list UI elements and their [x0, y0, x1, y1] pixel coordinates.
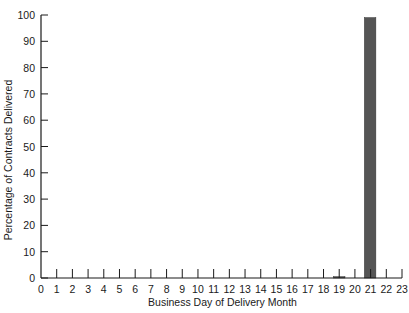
y-tick-label: 40 [5, 167, 35, 179]
y-axis-label: Percentage of Contracts Delivered [2, 80, 14, 241]
plot-area [0, 0, 409, 313]
y-tick-label: 80 [5, 62, 35, 74]
x-axis-label: Business Day of Delivery Month [0, 296, 409, 308]
bar-day-21 [364, 18, 376, 278]
y-tick-label: 50 [5, 141, 35, 153]
y-tick-label: 70 [5, 88, 35, 100]
y-tick-label: 20 [5, 219, 35, 231]
y-tick-label: 60 [5, 114, 35, 126]
y-tick-label: 90 [5, 35, 35, 47]
x-tick-label: 23 [392, 283, 409, 295]
y-tick-label: 10 [5, 246, 35, 258]
bar-chart: Percentage of Contracts Delivered Busine… [0, 0, 409, 313]
y-tick-label: 100 [5, 9, 35, 21]
y-tick-label: 30 [5, 193, 35, 205]
